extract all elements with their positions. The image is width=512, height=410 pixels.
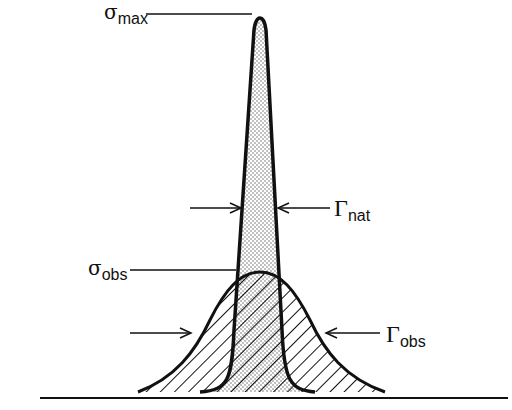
gamma-nat-label: Γnat bbox=[334, 196, 370, 220]
subscript: max bbox=[118, 10, 148, 27]
sigma-symbol: σ bbox=[104, 0, 118, 24]
sigma-max-label: σmax bbox=[104, 2, 148, 22]
sigma-symbol: σ bbox=[88, 256, 102, 280]
subscript: obs bbox=[400, 333, 426, 350]
observed-profile-fill bbox=[138, 272, 385, 392]
subscript: obs bbox=[102, 266, 128, 283]
gamma-symbol: Γ bbox=[386, 321, 400, 347]
subscript: nat bbox=[348, 207, 370, 224]
line-profile-diagram bbox=[0, 0, 512, 410]
sigma-obs-label: σobs bbox=[88, 258, 127, 278]
gamma-symbol: Γ bbox=[334, 195, 348, 221]
gamma-obs-label: Γobs bbox=[386, 322, 426, 346]
